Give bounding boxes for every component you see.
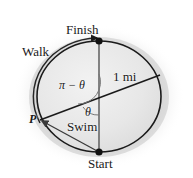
start-point-dot: [95, 148, 102, 155]
label-swim: Swim: [67, 120, 97, 133]
label-point-p: P: [29, 113, 36, 125]
pool-diagram-figure: Finish Start Walk 1 mi Swim π − θ θ P: [0, 0, 193, 178]
label-diameter-length: 1 mi: [113, 70, 136, 83]
label-pi-minus-theta: π − θ: [59, 79, 85, 91]
label-start: Start: [88, 157, 113, 170]
label-walk: Walk: [22, 45, 49, 58]
label-theta: θ: [85, 106, 91, 118]
label-finish: Finish: [66, 23, 99, 36]
finish-point-dot: [95, 37, 102, 44]
